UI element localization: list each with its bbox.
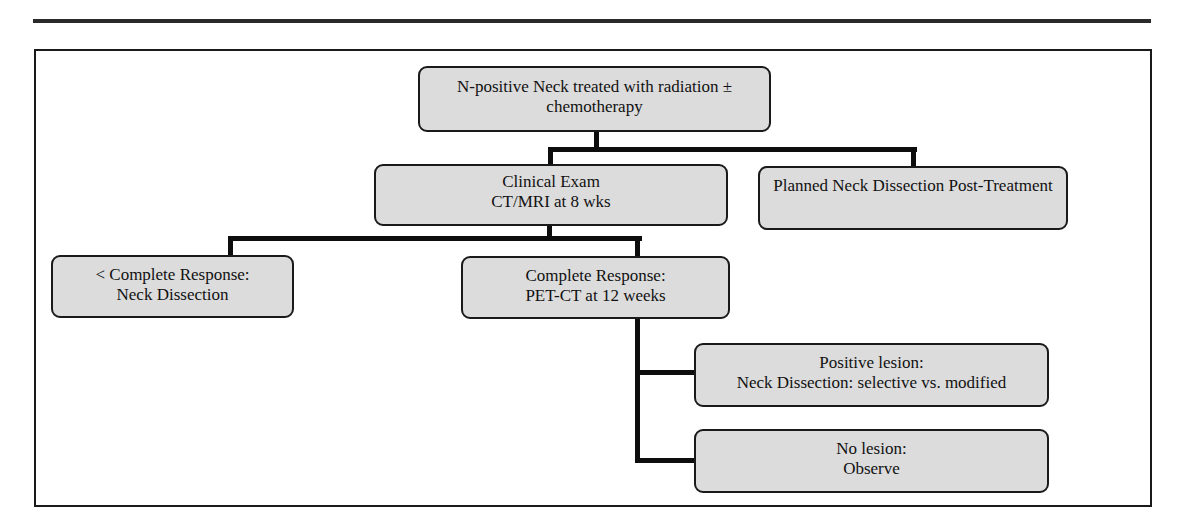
top-rule <box>33 19 1151 23</box>
connector-complete-down <box>635 317 640 463</box>
connector-clinical-branch <box>228 236 642 241</box>
node-positive-lesion-line2: Neck Dissection: selective vs. modified <box>696 373 1047 393</box>
node-incomplete-response-line2: Neck Dissection <box>53 285 292 305</box>
node-positive-lesion-line1: Positive lesion: <box>696 353 1047 373</box>
node-planned-dissection-line1: Planned Neck Dissection Post-Treatment <box>760 176 1066 196</box>
connector-to-complete-response <box>635 236 640 258</box>
node-incomplete-response-line1: < Complete Response: <box>53 265 292 285</box>
node-incomplete-response: < Complete Response: Neck Dissection <box>51 255 294 318</box>
node-no-lesion: No lesion: Observe <box>694 429 1049 493</box>
connector-to-planned-dissection <box>911 147 916 168</box>
node-positive-lesion: Positive lesion: Neck Dissection: select… <box>694 343 1049 407</box>
connector-to-no-lesion <box>635 458 696 463</box>
node-no-lesion-line1: No lesion: <box>696 439 1047 459</box>
node-clinical-exam-line2: CT/MRI at 8 wks <box>376 192 726 212</box>
node-clinical-exam-line1: Clinical Exam <box>376 172 726 192</box>
connector-to-incomplete-response <box>228 236 233 257</box>
node-root-line1: N-positive Neck treated with radiation ± <box>420 77 769 97</box>
connector-root-branch <box>548 147 917 152</box>
node-complete-response-line1: Complete Response: <box>463 266 728 286</box>
node-root-line2: chemotherapy <box>420 97 769 117</box>
connector-to-positive-lesion <box>635 370 696 375</box>
node-clinical-exam: Clinical Exam CT/MRI at 8 wks <box>374 164 728 226</box>
node-complete-response: Complete Response: PET-CT at 12 weeks <box>461 256 730 319</box>
node-complete-response-line2: PET-CT at 12 weeks <box>463 286 728 306</box>
node-root: N-positive Neck treated with radiation ±… <box>418 66 771 132</box>
node-planned-dissection: Planned Neck Dissection Post-Treatment <box>758 166 1068 230</box>
node-no-lesion-line2: Observe <box>696 459 1047 479</box>
